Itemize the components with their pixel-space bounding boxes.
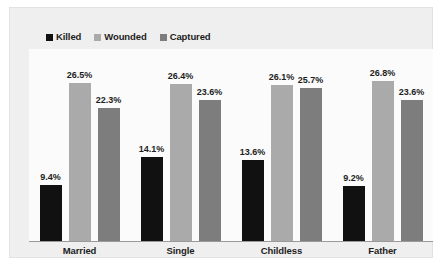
category-label-married: Married (29, 244, 130, 260)
bar-value-label: 26.1% (269, 73, 295, 82)
legend-item-label: Killed (56, 32, 81, 42)
bar-father-killed[interactable]: 9.2% (343, 49, 365, 241)
legend-swatch-icon (46, 34, 53, 41)
bar-rect[interactable] (141, 157, 163, 241)
bar-rect[interactable] (343, 186, 365, 241)
bar-group-bars: 14.1%26.4%23.6% (130, 49, 231, 241)
bar-childless-killed[interactable]: 13.6% (242, 49, 264, 241)
bar-value-label: 14.1% (139, 145, 165, 154)
x-axis-category-labels: MarriedSingleChildlessFather (29, 244, 433, 260)
x-axis-line (29, 241, 433, 242)
bar-value-label: 9.2% (343, 174, 364, 183)
bar-group-single: 14.1%26.4%23.6% (130, 49, 231, 241)
legend-item-killed[interactable]: Killed (46, 32, 81, 42)
bar-groups: 9.4%26.5%22.3%14.1%26.4%23.6%13.6%26.1%2… (29, 49, 433, 241)
bar-rect[interactable] (199, 100, 221, 241)
legend-item-label: Wounded (104, 32, 146, 42)
bar-married-killed[interactable]: 9.4% (40, 49, 62, 241)
bar-rect[interactable] (98, 108, 120, 241)
bar-father-captured[interactable]: 23.6% (401, 49, 423, 241)
legend-item-captured[interactable]: Captured (160, 32, 211, 42)
chart-legend: KilledWoundedCaptured (46, 30, 211, 44)
plot-area: 9.4%26.5%22.3%14.1%26.4%23.6%13.6%26.1%2… (29, 49, 433, 241)
bar-value-label: 23.6% (399, 88, 425, 97)
bar-rect[interactable] (40, 185, 62, 241)
bar-group-childless: 13.6%26.1%25.7% (231, 49, 332, 241)
bar-childless-captured[interactable]: 25.7% (300, 49, 322, 241)
bar-group-bars: 9.4%26.5%22.3% (29, 49, 130, 241)
bar-rect[interactable] (271, 85, 293, 241)
bar-married-captured[interactable]: 22.3% (98, 49, 120, 241)
bar-value-label: 26.8% (370, 69, 396, 78)
bar-group-bars: 13.6%26.1%25.7% (231, 49, 332, 241)
bar-rect[interactable] (300, 88, 322, 241)
bar-value-label: 25.7% (298, 76, 324, 85)
legend-item-wounded[interactable]: Wounded (94, 32, 146, 42)
chart-frame: KilledWoundedCaptured 9.4%26.5%22.3%14.1… (9, 7, 433, 258)
bar-single-killed[interactable]: 14.1% (141, 49, 163, 241)
bar-group-bars: 9.2%26.8%23.6% (332, 49, 433, 241)
bar-single-captured[interactable]: 23.6% (199, 49, 221, 241)
bar-single-wounded[interactable]: 26.4% (170, 49, 192, 241)
bar-value-label: 13.6% (240, 148, 266, 157)
bar-rect[interactable] (401, 100, 423, 241)
legend-item-label: Captured (170, 32, 211, 42)
bar-married-wounded[interactable]: 26.5% (69, 49, 91, 241)
bar-rect[interactable] (170, 84, 192, 242)
bar-rect[interactable] (69, 83, 91, 241)
category-label-single: Single (130, 244, 231, 260)
bar-value-label: 26.5% (67, 71, 93, 80)
bar-group-father: 9.2%26.8%23.6% (332, 49, 433, 241)
bar-father-wounded[interactable]: 26.8% (372, 49, 394, 241)
bar-childless-wounded[interactable]: 26.1% (271, 49, 293, 241)
bar-group-married: 9.4%26.5%22.3% (29, 49, 130, 241)
bar-value-label: 22.3% (96, 96, 122, 105)
category-label-father: Father (332, 244, 433, 260)
legend-swatch-icon (94, 34, 101, 41)
legend-swatch-icon (160, 34, 167, 41)
chart-figure: KilledWoundedCaptured 9.4%26.5%22.3%14.1… (0, 0, 442, 265)
bar-rect[interactable] (372, 81, 394, 241)
bar-rect[interactable] (242, 160, 264, 241)
bar-value-label: 23.6% (197, 88, 223, 97)
bar-value-label: 9.4% (40, 173, 61, 182)
bar-value-label: 26.4% (168, 72, 194, 81)
category-label-childless: Childless (231, 244, 332, 260)
